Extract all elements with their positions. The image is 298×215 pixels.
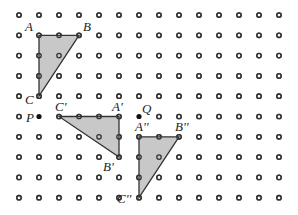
- diagram-svg: ABCA'B'C'A''B''C''PQ: [0, 0, 298, 215]
- point-p-icon: [36, 114, 41, 119]
- vertex-label: A'': [134, 119, 149, 134]
- vertex-label: A': [111, 99, 123, 114]
- vertex-label: B': [103, 159, 114, 174]
- vertex-label: C'': [117, 191, 131, 206]
- vertex-label: B: [83, 19, 91, 34]
- vertex-label: C': [55, 99, 67, 114]
- vertex-label: C: [25, 92, 34, 107]
- point-label: Q: [142, 101, 152, 116]
- dot-grid-diagram: ABCA'B'C'A''B''C''PQ: [0, 0, 298, 215]
- vertex-label: B'': [175, 119, 189, 134]
- vertex-label: A: [24, 19, 33, 34]
- point-label: P: [25, 110, 34, 125]
- triangle-abc: [39, 35, 79, 96]
- triangle-apbpcp: [59, 117, 119, 158]
- triangle-appbppcpp: [139, 137, 179, 198]
